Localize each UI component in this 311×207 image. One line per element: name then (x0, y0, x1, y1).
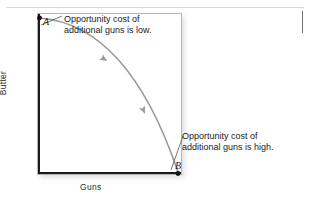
top-rule-divider (6, 7, 304, 8)
callout-low-opportunity-cost: Opportunity cost of additional guns is l… (64, 14, 152, 36)
right-edge-tick (302, 11, 303, 33)
y-axis-label: Butter (0, 71, 8, 95)
callout-high-line1: Opportunity cost of (182, 131, 274, 142)
y-axis-line (38, 14, 40, 174)
callout-low-line2: additional guns is low. (64, 25, 152, 36)
callout-high-line2: additional guns is high. (182, 142, 274, 153)
x-axis-line (38, 172, 181, 174)
plot-frame (37, 13, 182, 175)
figure-canvas: Butter Guns A B Opportunity cost of addi… (0, 0, 311, 207)
callout-high-opportunity-cost: Opportunity cost of additional guns is h… (182, 131, 274, 153)
callout-low-line1: Opportunity cost of (64, 14, 152, 25)
x-axis-label: Guns (80, 182, 102, 192)
point-label-b: B (175, 160, 181, 171)
point-label-a: A (43, 16, 49, 27)
